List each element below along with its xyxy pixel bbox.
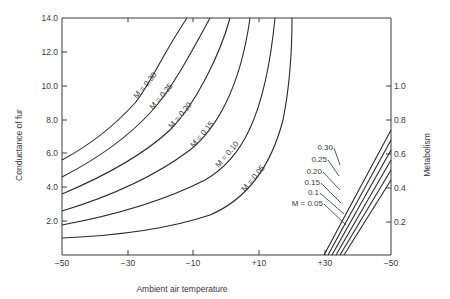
curve-label: M = 0.20 — [167, 100, 194, 130]
curve-m-020 — [62, 18, 230, 194]
y-right-tick-label: 0.2 — [394, 217, 406, 227]
metabolism-label: 0.1 — [308, 188, 320, 197]
y-axis-left-title: Conductance of fur — [14, 109, 24, 181]
y-tick-label: 10.0 — [41, 81, 58, 91]
curve-label: M = 0.15 — [189, 119, 216, 149]
y-tick-label: 12.0 — [41, 47, 58, 57]
x-tick-label: −10 — [186, 258, 201, 268]
metabolism-label: 0.30 — [317, 143, 333, 152]
x-tick-label: +30 — [318, 258, 333, 268]
metabolism-line-015 — [336, 160, 391, 255]
y-axis-right-labels: 0.2 0.4 0.6 0.8 1.0 — [394, 81, 406, 227]
y-right-tick-label: 0.4 — [394, 183, 406, 193]
curve-label: M = 0.10 — [214, 139, 241, 169]
x-tick-label: −50 — [55, 258, 70, 268]
curve-label: M = 0.25 — [148, 81, 175, 111]
x-axis-labels: −50 −30 −10 +10 +30 −50 — [55, 258, 399, 268]
curve-m-005 — [62, 18, 292, 238]
y-tick-label: 4.0 — [46, 182, 58, 192]
metabolism-label: 0.15 — [304, 178, 320, 187]
y-right-tick-label: 1.0 — [394, 81, 406, 91]
metabolism-labels: M = 0.05 0.1 0.15 0.20 0.25 0.30 — [292, 143, 334, 208]
y-right-tick-label: 0.8 — [394, 115, 406, 125]
y-axis-left-ticks — [62, 52, 67, 221]
metabolism-line-010 — [340, 170, 391, 255]
y-tick-label: 8.0 — [46, 115, 58, 125]
chart-canvas: 2.0 4.0 6.0 8.0 10.0 12.0 14.0 0.2 0.4 0… — [0, 0, 450, 299]
y-axis-left-labels: 2.0 4.0 6.0 8.0 10.0 12.0 14.0 — [41, 13, 58, 226]
metabolism-label: M = 0.05 — [292, 199, 324, 208]
x-tick-label: −50 — [384, 258, 399, 268]
metabolism-label: 0.25 — [311, 155, 327, 164]
y-tick-label: 14.0 — [41, 13, 58, 23]
x-axis-ticks — [128, 18, 325, 255]
plot-frame — [62, 18, 391, 255]
y-tick-label: 2.0 — [46, 216, 58, 226]
y-right-tick-label: 0.6 — [394, 149, 406, 159]
x-tick-label: −30 — [121, 258, 136, 268]
x-tick-label: +10 — [252, 258, 267, 268]
conductance-curves — [62, 18, 292, 238]
metabolism-label: 0.20 — [306, 167, 322, 176]
x-axis-title: Ambient air temperature — [136, 284, 227, 294]
curve-m-015 — [62, 18, 250, 211]
y-tick-label: 6.0 — [46, 148, 58, 158]
curve-label: M = 0.05 — [240, 163, 267, 193]
y-axis-right-title: Metabolism — [422, 133, 432, 176]
